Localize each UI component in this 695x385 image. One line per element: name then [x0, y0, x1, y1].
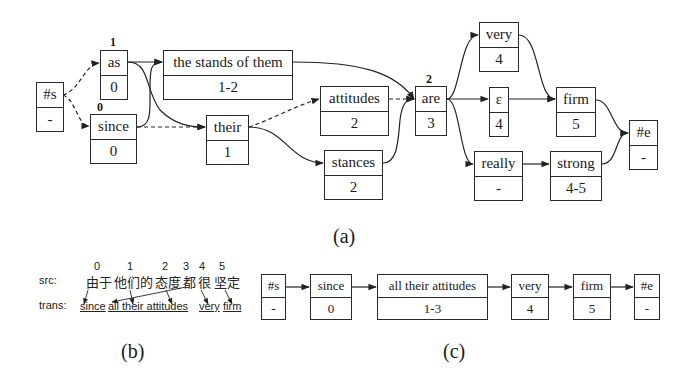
node-end: #e - — [629, 120, 658, 170]
src-index: 0 — [94, 260, 100, 272]
node-very: very 4 — [479, 22, 519, 72]
src-index: 4 — [199, 260, 205, 272]
node-span: - — [630, 146, 657, 170]
node-start: #s - — [36, 82, 64, 132]
node-word: very — [512, 275, 548, 298]
node-word: their — [207, 116, 248, 141]
node-span: 1-2 — [164, 76, 292, 100]
node-their: their 1 — [206, 115, 249, 165]
node-span: 0 — [311, 298, 351, 320]
trans-word: very — [199, 300, 220, 312]
node-span: 5 — [574, 298, 610, 320]
node-the-stands-of-them: the stands of them 1-2 — [163, 50, 293, 100]
chain-node-end: #e - — [634, 274, 660, 320]
node-index: 1 — [110, 35, 116, 50]
node-word: attitudes — [321, 87, 388, 112]
node-span: 3 — [416, 112, 446, 136]
node-span: 0 — [91, 140, 136, 164]
node-span: - — [262, 298, 285, 320]
trans-word: since — [80, 300, 106, 312]
node-as: as 0 — [100, 50, 128, 100]
node-word: since — [91, 115, 136, 140]
node-word: strong — [551, 152, 601, 177]
node-span: 2 — [325, 176, 382, 200]
node-word: firm — [574, 275, 610, 298]
node-span: - — [37, 108, 63, 132]
chain-node-since: since 0 — [310, 274, 352, 320]
src-label: src: — [39, 274, 57, 286]
node-strong: strong 4-5 — [550, 151, 602, 201]
node-word: ε — [490, 88, 508, 113]
edge-s-since — [63, 95, 89, 126]
node-word: since — [311, 275, 351, 298]
node-span: - — [475, 177, 522, 201]
edge-their-attitudes — [249, 99, 319, 127]
node-word: #s — [37, 83, 63, 108]
edge-are-really — [447, 99, 473, 164]
node-word: #s — [262, 275, 285, 298]
node-epsilon: ε 4 — [489, 87, 509, 137]
node-stances: stances 2 — [324, 150, 383, 200]
trans-label: trans: — [39, 299, 67, 311]
node-word: firm — [557, 88, 595, 113]
node-word: the stands of them — [164, 51, 292, 76]
src-word: 坚定 — [214, 272, 240, 291]
src-word: 他们的 — [114, 272, 153, 291]
node-span: 2 — [321, 112, 388, 136]
src-word: 由于 — [86, 272, 112, 291]
edge-are-very — [447, 35, 478, 99]
caption-b: (b) — [121, 340, 144, 363]
node-are: are 3 — [415, 86, 447, 136]
node-span: - — [635, 298, 659, 320]
node-span: 5 — [557, 113, 595, 137]
chain-node-very: very 4 — [511, 274, 549, 320]
chain-node-firm: firm 5 — [573, 274, 611, 320]
node-word: #e — [630, 121, 657, 146]
edge-strong-e — [602, 133, 628, 164]
node-span: 4-5 — [551, 177, 601, 201]
edge-firm-e — [596, 100, 628, 133]
edge-s-as — [63, 63, 99, 95]
caption-c: (c) — [443, 340, 465, 363]
node-word: #e — [635, 275, 659, 298]
caption-a: (a) — [333, 225, 355, 248]
node-word: really — [475, 152, 522, 177]
edge-their-stances — [249, 127, 323, 163]
node-word: stances — [325, 151, 382, 176]
node-span: 1-3 — [378, 298, 487, 320]
node-really: really - — [474, 151, 523, 201]
chain-node-start: #s - — [261, 274, 286, 320]
edge-since-stands — [137, 62, 162, 127]
node-firm: firm 5 — [556, 87, 596, 137]
node-span: 4 — [480, 48, 518, 72]
node-word: very — [480, 23, 518, 48]
node-span: 0 — [101, 76, 127, 100]
node-attitudes: attitudes 2 — [320, 86, 389, 136]
node-index: 2 — [426, 72, 432, 87]
src-index: 1 — [127, 260, 133, 272]
node-word: are — [416, 87, 446, 112]
src-word: 都 — [183, 272, 196, 291]
node-span: 1 — [207, 141, 248, 165]
src-word: 态度 — [155, 272, 181, 291]
src-index: 2 — [162, 260, 168, 272]
src-word: 很 — [198, 272, 211, 291]
node-word: as — [101, 51, 127, 76]
src-index: 5 — [219, 260, 225, 272]
src-index: 3 — [183, 260, 189, 272]
node-since: since 0 — [90, 114, 137, 164]
trans-word: firm — [223, 300, 241, 312]
trans-word: all their attitudes — [108, 300, 188, 312]
node-word: all their attitudes — [378, 275, 487, 298]
edge-very-firm — [519, 35, 555, 99]
node-span: 4 — [490, 113, 508, 137]
chain-node-all-their-attitudes: all their attitudes 1-3 — [377, 274, 488, 320]
node-index: 0 — [97, 100, 103, 115]
node-span: 4 — [512, 298, 548, 320]
